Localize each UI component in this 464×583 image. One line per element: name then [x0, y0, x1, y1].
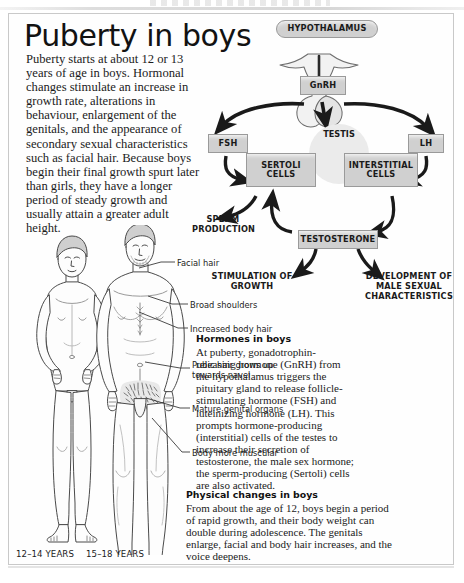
- hormones-heading: Hormones in boys: [196, 333, 354, 345]
- arrow-to-lh: [344, 104, 428, 128]
- page-top-rule: [0, 7, 464, 10]
- hypothalamus-box: HYPOTHALAMUS: [276, 20, 378, 38]
- arrow-to-fsh: [222, 104, 304, 126]
- older-boy-figure: [97, 225, 185, 555]
- boys-figures-illustration: [14, 225, 194, 555]
- interstitial-cells-box: INTERSTITIAL CELLS: [344, 153, 418, 187]
- arrow-testosterone-to-development: [358, 249, 376, 273]
- stimulation-of-growth-label: STIMULATION OF GROWTH: [210, 271, 294, 291]
- physical-body: From about the age of 12, boys begin a p…: [186, 502, 400, 562]
- arrow-fsh-to-sertoli: [225, 156, 242, 180]
- label-broad-shoulders: Broad shoulders: [190, 300, 257, 310]
- physical-heading: Physical changes in boys: [186, 489, 400, 501]
- younger-boy-figure: [37, 236, 108, 542]
- arrow-testosterone-to-sertoli: [272, 200, 292, 232]
- page-root: Puberty in boys Puberty starts at about …: [0, 0, 464, 583]
- testosterone-box: TESTOSTERONE: [298, 230, 378, 249]
- lh-box: LH: [408, 134, 444, 153]
- sertoli-cells-box: SERTOLI CELLS: [246, 153, 316, 187]
- fsh-box: FSH: [208, 134, 248, 153]
- arrow-interstitial-to-testosterone: [376, 196, 394, 232]
- intro-paragraph: Puberty starts at about 12 or 13 years o…: [26, 52, 202, 235]
- hormone-flow-diagram: HYPOTHALAMUS GnRH FSH LH TESTIS SERTOLI …: [196, 16, 454, 288]
- label-facial-hair: Facial hair: [177, 258, 219, 268]
- page-bottom-rule: [8, 566, 454, 568]
- figures-svg: [14, 225, 194, 555]
- arrow-testosterone-to-growth: [300, 249, 316, 272]
- testis-label: TESTIS: [309, 129, 369, 139]
- gnrh-box: GnRH: [300, 76, 346, 95]
- sperm-production-label: SPERM PRODUCTION: [192, 214, 254, 234]
- hormones-body: At puberty, gonadotrophin-releasing horm…: [196, 346, 354, 491]
- age-caption-older: 15–18 YEARS: [86, 549, 144, 559]
- page-top-artifact: [150, 0, 330, 6]
- development-characteristics-label: DEVELOPMENT OF MALE SEXUAL CHARACTERISTI…: [364, 271, 454, 301]
- age-caption-younger: 12–14 YEARS: [16, 549, 74, 559]
- hormones-in-boys-section: Hormones in boys At puberty, gonadotroph…: [196, 333, 354, 491]
- physical-changes-section: Physical changes in boys From about the …: [186, 489, 400, 563]
